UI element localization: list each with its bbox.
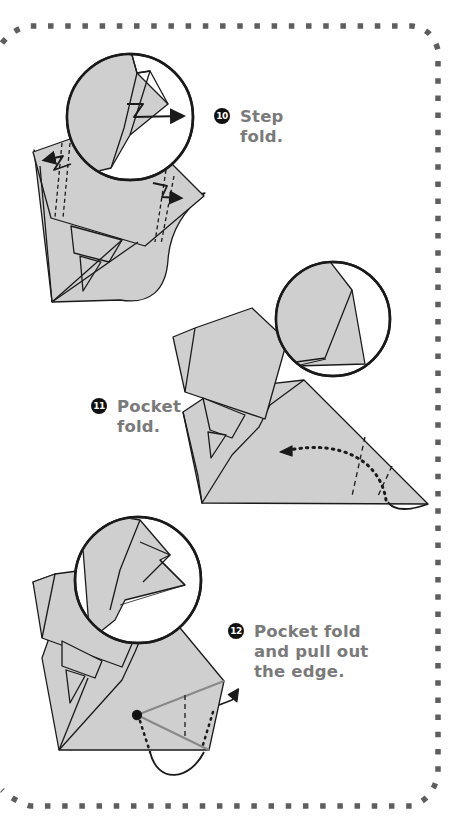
step-12-number-badge: 12 [228,623,244,639]
diagram-canvas [0,0,456,821]
step-10-number-badge: 10 [214,108,230,124]
step-11-text-line-1: Pocket [117,397,181,417]
instruction-page: 10 Step fold. 11 Pocket fold. 12 Pocket … [0,0,456,821]
step-12-text-line-1: Pocket fold [254,622,368,642]
step-10-text-line-2: fold. [240,127,284,147]
step-12-text-line-3: the edge. [254,662,368,682]
step-12-diagram [33,510,243,775]
step-10-label: 10 Step fold. [240,107,284,147]
step-10-text-line-1: Step [240,107,284,127]
step-10-diagram [33,40,205,302]
step-12-label: 12 Pocket fold and pull out the edge. [254,622,368,682]
step-11-number-badge: 11 [91,398,107,414]
step-11-text-line-2: fold. [117,417,181,437]
step-11-diagram [173,259,428,509]
step-12-text-line-2: and pull out [254,642,368,662]
step-11-label: 11 Pocket fold. [117,397,181,437]
